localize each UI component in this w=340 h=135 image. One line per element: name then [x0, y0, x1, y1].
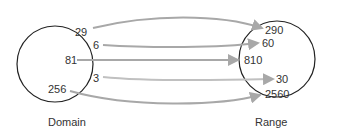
domain-value-29: 29 — [75, 27, 87, 38]
arrow-6-60 — [103, 43, 258, 47]
arrow-29-290 — [93, 18, 262, 29]
domain-value-6: 6 — [93, 40, 99, 51]
range-value-60: 60 — [262, 38, 274, 49]
domain-value-81: 81 — [65, 55, 77, 66]
domain-value-3: 3 — [93, 73, 99, 84]
mapping-diagram — [0, 0, 340, 135]
range-value-2560: 2560 — [265, 89, 289, 100]
range-value-30: 30 — [276, 74, 288, 85]
arrow-256-2560 — [70, 91, 260, 104]
range-value-290: 290 — [265, 25, 283, 36]
arrow-3-30 — [103, 77, 273, 80]
domain-caption: Domain — [48, 117, 86, 128]
range-value-810: 810 — [244, 55, 262, 66]
domain-value-256: 256 — [48, 84, 66, 95]
range-caption: Range — [255, 117, 287, 128]
